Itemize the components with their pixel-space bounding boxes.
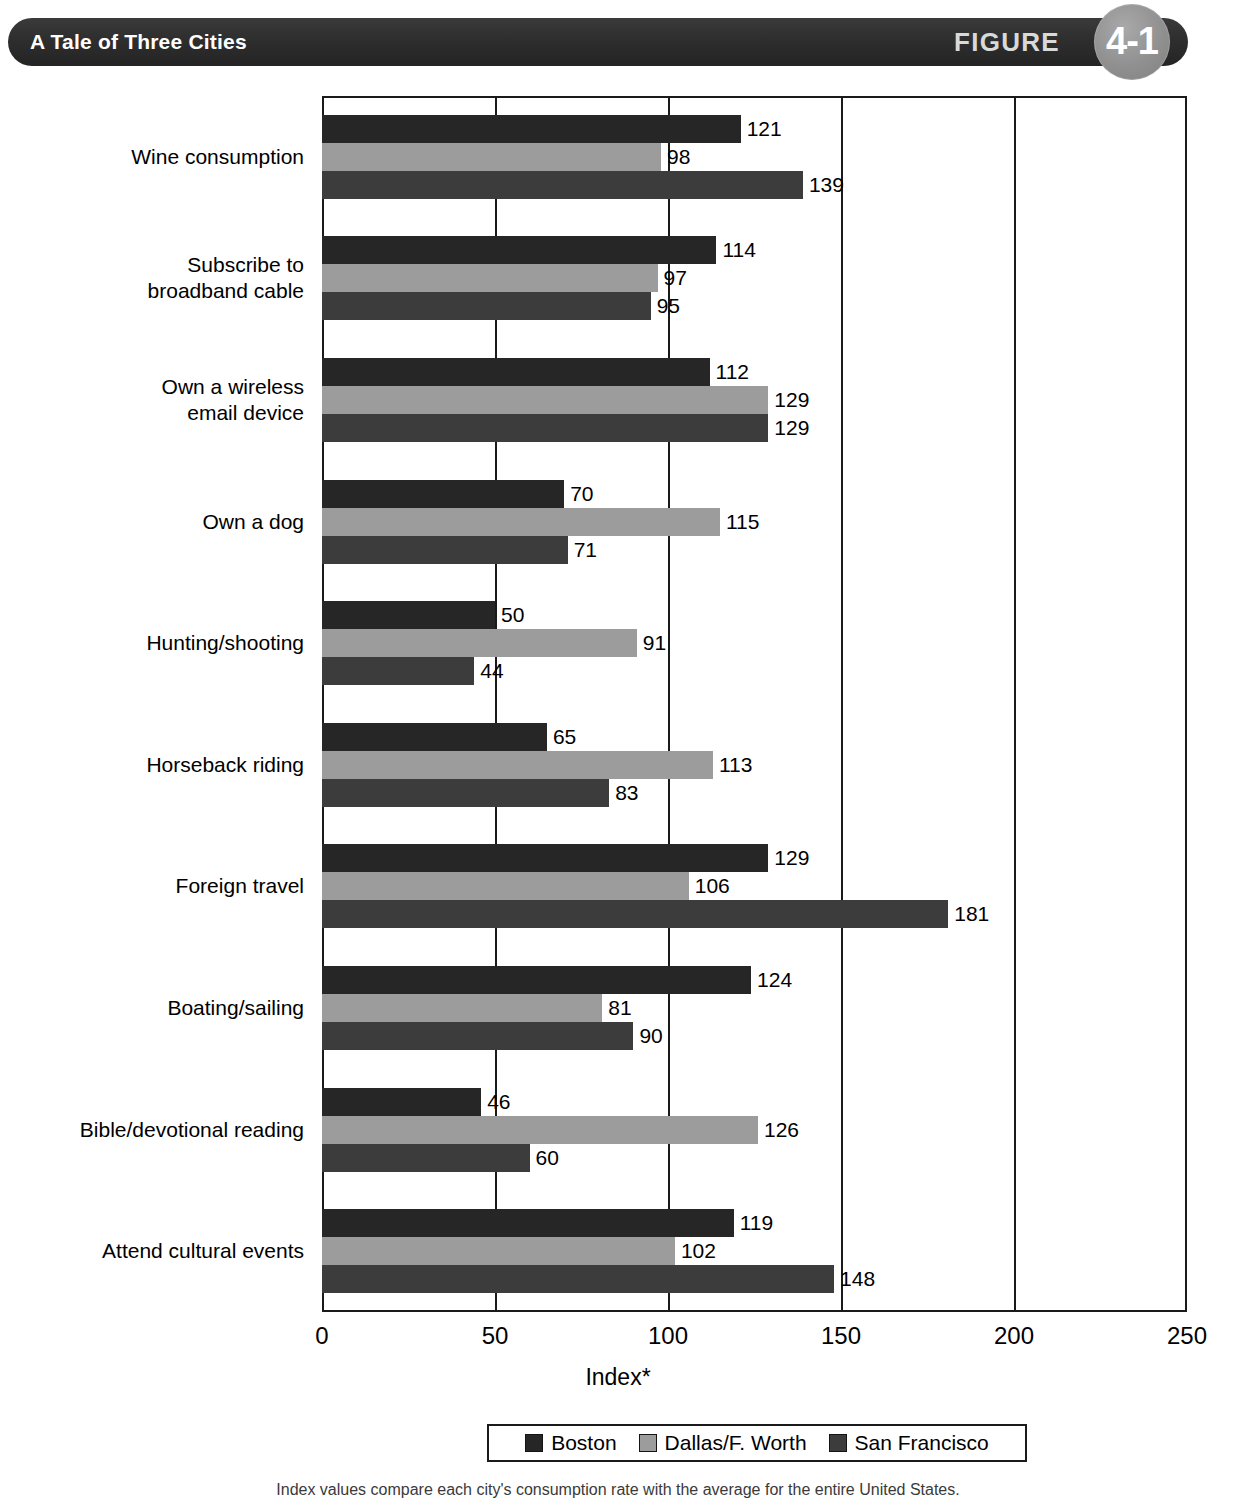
bar-value-label: 112 bbox=[716, 358, 749, 386]
x-tick-label: 0 bbox=[315, 1322, 328, 1350]
bar bbox=[322, 414, 768, 442]
bar bbox=[322, 386, 768, 414]
bar bbox=[322, 480, 564, 508]
bar bbox=[322, 1116, 758, 1144]
bar-value-label: 119 bbox=[740, 1209, 773, 1237]
page-title: A Tale of Three Cities bbox=[30, 30, 247, 54]
bar-value-label: 113 bbox=[719, 751, 752, 779]
bar-value-label: 81 bbox=[608, 994, 631, 1022]
bar-value-label: 129 bbox=[774, 844, 809, 872]
figure-number-badge: 4-1 bbox=[1094, 4, 1170, 80]
x-axis-title: Index* bbox=[0, 1364, 1236, 1391]
bar bbox=[322, 508, 720, 536]
bar bbox=[322, 657, 474, 685]
bar-value-label: 98 bbox=[667, 143, 690, 171]
figure-number-text: 4-1 bbox=[1106, 22, 1158, 60]
bar-value-label: 114 bbox=[722, 236, 755, 264]
legend-entry: Boston bbox=[525, 1431, 616, 1455]
bar bbox=[322, 236, 716, 264]
legend-label: Dallas/F. Worth bbox=[665, 1431, 807, 1455]
figure-header-banner: A Tale of Three Cities FIGURE 4-1 bbox=[8, 18, 1188, 66]
bar-value-label: 71 bbox=[574, 536, 597, 564]
bar bbox=[322, 292, 651, 320]
bar-value-label: 124 bbox=[757, 966, 792, 994]
x-tick-label: 200 bbox=[994, 1322, 1034, 1350]
bar-value-label: 115 bbox=[726, 508, 759, 536]
bar-value-label: 129 bbox=[774, 414, 809, 442]
bar bbox=[322, 1144, 530, 1172]
bar bbox=[322, 264, 658, 292]
bar bbox=[322, 536, 568, 564]
category-label: Bible/devotional reading bbox=[0, 1117, 304, 1143]
figure-word-label: FIGURE bbox=[954, 27, 1060, 58]
bar-value-label: 70 bbox=[570, 480, 593, 508]
bar bbox=[322, 779, 609, 807]
bar bbox=[322, 751, 713, 779]
bar-value-label: 44 bbox=[480, 657, 503, 685]
chart-legend: BostonDallas/F. WorthSan Francisco bbox=[487, 1424, 1027, 1462]
chart-footnote: Index values compare each city's consump… bbox=[0, 1481, 1236, 1499]
bar-value-label: 91 bbox=[643, 629, 666, 657]
bar bbox=[322, 1265, 834, 1293]
bar bbox=[322, 966, 751, 994]
category-label: Own a wireless email device bbox=[0, 374, 304, 426]
bar bbox=[322, 1209, 734, 1237]
bar-value-label: 121 bbox=[747, 115, 782, 143]
bar-value-label: 129 bbox=[774, 386, 809, 414]
bar bbox=[322, 629, 637, 657]
bar-chart: Wine consumptionSubscribe to broadband c… bbox=[0, 82, 1236, 1382]
legend-label: San Francisco bbox=[855, 1431, 989, 1455]
bar bbox=[322, 358, 710, 386]
bar-value-label: 46 bbox=[487, 1088, 510, 1116]
category-label: Wine consumption bbox=[0, 144, 304, 170]
bar-value-label: 83 bbox=[615, 779, 638, 807]
bar-value-label: 148 bbox=[840, 1265, 875, 1293]
bar bbox=[322, 1022, 633, 1050]
legend-entry: San Francisco bbox=[829, 1431, 989, 1455]
legend-label: Boston bbox=[551, 1431, 616, 1455]
x-tick-label: 150 bbox=[821, 1322, 861, 1350]
bar bbox=[322, 143, 661, 171]
category-label: Horseback riding bbox=[0, 752, 304, 778]
bar-value-label: 139 bbox=[809, 171, 844, 199]
gridline bbox=[1014, 96, 1016, 1312]
gridline bbox=[841, 96, 843, 1312]
bar-value-label: 95 bbox=[657, 292, 680, 320]
bar bbox=[322, 1237, 675, 1265]
bar-value-label: 126 bbox=[764, 1116, 799, 1144]
x-tick-label: 100 bbox=[648, 1322, 688, 1350]
category-label: Attend cultural events bbox=[0, 1238, 304, 1264]
bar bbox=[322, 900, 948, 928]
category-label: Hunting/shooting bbox=[0, 630, 304, 656]
bar bbox=[322, 994, 602, 1022]
legend-swatch-icon bbox=[829, 1434, 847, 1452]
category-label: Subscribe to broadband cable bbox=[0, 252, 304, 304]
bar bbox=[322, 601, 495, 629]
bar bbox=[322, 723, 547, 751]
category-label: Foreign travel bbox=[0, 873, 304, 899]
bar-value-label: 60 bbox=[536, 1144, 559, 1172]
bar-value-label: 90 bbox=[639, 1022, 662, 1050]
legend-swatch-icon bbox=[525, 1434, 543, 1452]
category-label: Boating/sailing bbox=[0, 995, 304, 1021]
bar-value-label: 106 bbox=[695, 872, 730, 900]
bar-value-label: 97 bbox=[664, 264, 687, 292]
legend-entry: Dallas/F. Worth bbox=[639, 1431, 807, 1455]
x-tick-label: 250 bbox=[1167, 1322, 1207, 1350]
bar-value-label: 102 bbox=[681, 1237, 716, 1265]
bar bbox=[322, 872, 689, 900]
bar-value-label: 181 bbox=[954, 900, 989, 928]
bar-value-label: 50 bbox=[501, 601, 524, 629]
bar bbox=[322, 171, 803, 199]
x-tick-label: 50 bbox=[482, 1322, 509, 1350]
legend-swatch-icon bbox=[639, 1434, 657, 1452]
category-label: Own a dog bbox=[0, 509, 304, 535]
bar bbox=[322, 1088, 481, 1116]
bar-value-label: 65 bbox=[553, 723, 576, 751]
bar bbox=[322, 844, 768, 872]
bar bbox=[322, 115, 741, 143]
